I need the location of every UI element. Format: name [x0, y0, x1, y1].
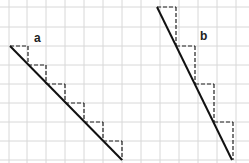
label-a: a — [34, 31, 41, 45]
label-b: b — [200, 29, 207, 43]
staircase-diagrams — [0, 0, 249, 163]
figure: a b — [0, 0, 249, 163]
